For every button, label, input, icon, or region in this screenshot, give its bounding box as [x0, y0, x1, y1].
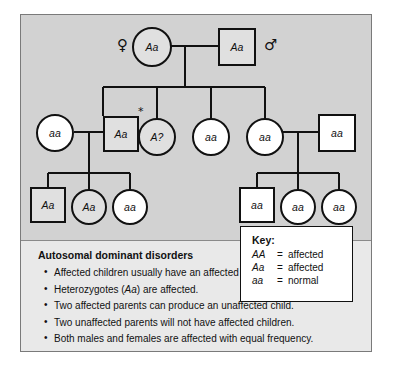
g2-spouse-left-circle[interactable]: aa — [36, 114, 74, 152]
g3-left-square[interactable]: Aa — [30, 187, 66, 223]
key-genotype: AA — [252, 249, 274, 262]
key-equals: = — [274, 249, 288, 262]
g3-right-circle-2[interactable]: aa — [321, 189, 357, 225]
g3-left-circle-1[interactable]: Aa — [71, 189, 107, 225]
table-row: Aa = affected — [252, 262, 325, 275]
list-item: Two unaffected parents will not have aff… — [43, 317, 361, 329]
male-sex-icon: ♂ — [264, 38, 277, 53]
female-sex-icon: ♀ — [117, 38, 128, 53]
g2-unknown-circle[interactable]: A? — [138, 118, 176, 156]
table-row: aa = normal — [252, 275, 325, 288]
key-meaning: affected — [288, 249, 325, 262]
key-table: AA = affected Aa = affected aa = normal — [252, 249, 325, 288]
key-equals: = — [274, 262, 288, 275]
notes-title: Autosomal dominant disorders — [38, 249, 193, 261]
key-meaning: affected — [288, 262, 325, 275]
key-title: Key: — [252, 234, 352, 246]
g3-left-circle-2[interactable]: aa — [112, 189, 148, 225]
key-legend-box: Key: AA = affected Aa = affected aa = no… — [240, 226, 353, 302]
key-genotype: aa — [252, 275, 274, 288]
g2-normal-circle-1[interactable]: aa — [192, 118, 230, 156]
figure-frame: ♀ Aa Aa ♂ aa * Aa A? aa aa aa Aa Aa aa a… — [20, 14, 372, 352]
g1-male-square[interactable]: Aa — [218, 28, 256, 66]
key-meaning: normal — [288, 275, 325, 288]
key-genotype: Aa — [252, 262, 274, 275]
table-row: AA = affected — [252, 249, 325, 262]
g1-female-circle[interactable]: Aa — [132, 27, 172, 67]
key-equals: = — [274, 275, 288, 288]
g2-normal-circle-2[interactable]: aa — [246, 118, 284, 156]
g2-spouse-right-square[interactable]: aa — [318, 114, 356, 152]
g3-right-circle-1[interactable]: aa — [280, 189, 316, 225]
g3-right-square[interactable]: aa — [239, 187, 275, 223]
list-item: Both males and females are affected with… — [43, 333, 361, 345]
g2-affected-male-square[interactable]: Aa — [103, 116, 139, 152]
